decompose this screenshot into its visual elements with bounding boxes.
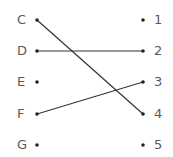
connection-line-C-4 xyxy=(37,20,143,114)
right-label: 1 xyxy=(154,12,166,28)
right-label: 3 xyxy=(154,74,166,90)
right-dot-3 xyxy=(141,80,145,84)
left-dot-E xyxy=(35,80,39,84)
right-dot-4 xyxy=(141,112,145,116)
left-label: E xyxy=(17,74,29,90)
right-label: 2 xyxy=(154,43,166,59)
connection-line-F-3 xyxy=(37,82,143,114)
left-dot-D xyxy=(35,49,39,53)
left-label: C xyxy=(17,12,29,28)
right-dot-2 xyxy=(141,49,145,53)
left-dot-G xyxy=(35,143,39,147)
right-label: 4 xyxy=(154,106,166,122)
left-label: G xyxy=(17,137,29,153)
right-dot-5 xyxy=(141,143,145,147)
left-dot-C xyxy=(35,18,39,22)
left-dot-F xyxy=(35,112,39,116)
left-label: D xyxy=(17,43,29,59)
right-label: 5 xyxy=(154,137,166,153)
right-dot-1 xyxy=(141,18,145,22)
left-label: F xyxy=(17,106,29,122)
